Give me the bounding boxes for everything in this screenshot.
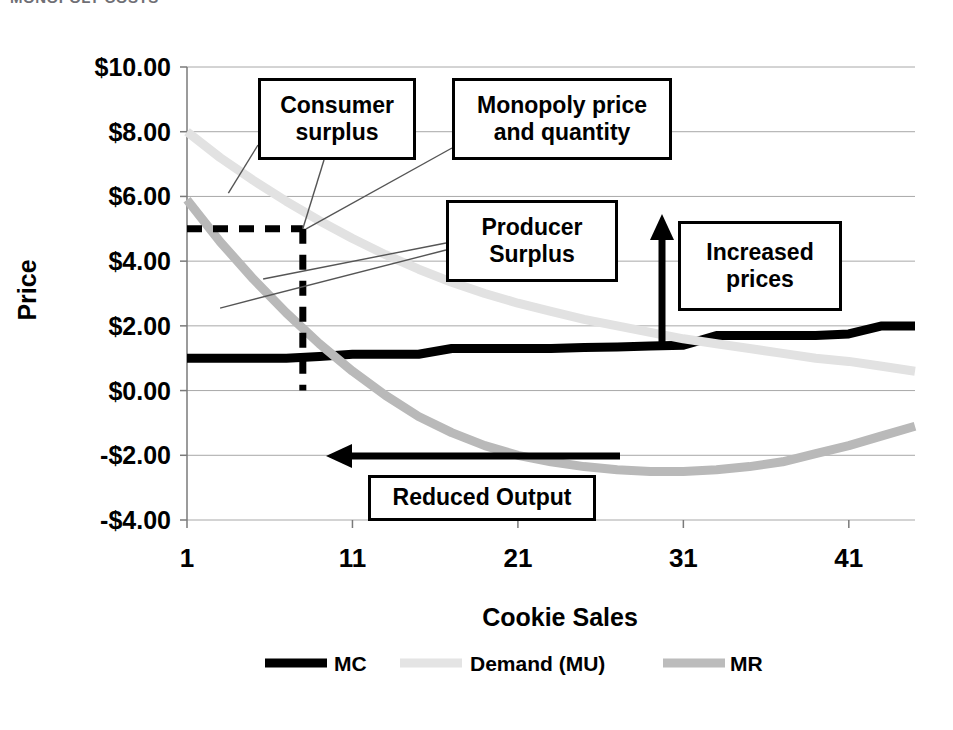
increased-prices-arrow-head — [650, 214, 674, 240]
x-axis-title: Cookie Sales — [482, 603, 638, 631]
annotation-reduced-output: Reduced Output — [368, 475, 596, 521]
y-axis-title: Price — [13, 259, 41, 320]
y-tick-label: $10.00 — [95, 53, 171, 81]
x-tick-label: 21 — [503, 543, 532, 573]
y-tick-label: $4.00 — [108, 247, 171, 275]
x-tick-label: 41 — [834, 543, 863, 573]
annotation-consumer-surplus: Consumer surplus — [258, 78, 416, 160]
chart-root: MONOPOLY COSTS $10.00$8.00$6.00$4.00$2.0… — [0, 0, 953, 730]
chart-legend: MCDemand (MU)MR — [265, 652, 763, 675]
y-tick-label: $2.00 — [108, 312, 171, 340]
annotation-reduced-output-line-1: Reduced Output — [393, 484, 572, 511]
legend-label-mc: MC — [334, 652, 367, 675]
annotation-consumer-surplus-line-1: Consumer — [280, 92, 394, 119]
annotation-increased-prices: Increased prices — [678, 221, 842, 311]
legend-label-demand-mu: Demand (MU) — [470, 652, 605, 675]
annotation-producer-surplus: Producer Surplus — [446, 200, 618, 282]
x-tick-label: 31 — [669, 543, 698, 573]
annotation-consumer-surplus-line-2: surplus — [295, 119, 378, 146]
x-tick-label: 1 — [180, 543, 194, 573]
annotation-producer-surplus-line-2: Surplus — [489, 241, 575, 268]
y-tick-label: $8.00 — [108, 118, 171, 146]
annotation-monopoly-price-and-quantity: Monopoly price and quantity — [452, 78, 672, 160]
annotation-increased-prices-line-2: prices — [726, 266, 794, 293]
annotation-monopoly-line-2: and quantity — [494, 119, 631, 146]
reduced-output-arrow-head — [326, 444, 352, 468]
annotation-monopoly-line-1: Monopoly price — [477, 92, 647, 119]
leader-monopoly-price-quantity — [306, 148, 452, 229]
y-axis-tick-labels: $10.00$8.00$6.00$4.00$2.00$0.00-$2.00-$4… — [95, 53, 171, 534]
legend-label-mr: MR — [730, 652, 763, 675]
annotation-producer-surplus-line-1: Producer — [482, 214, 583, 241]
x-tick-label: 11 — [339, 543, 367, 573]
y-tick-label: $6.00 — [108, 182, 171, 210]
y-tick-label: $0.00 — [108, 377, 171, 405]
annotation-increased-prices-line-1: Increased — [706, 239, 813, 266]
x-axis-tick-labels: 111213141 — [180, 543, 864, 573]
y-tick-label: -$4.00 — [100, 506, 171, 534]
y-tick-label: -$2.00 — [100, 441, 171, 469]
